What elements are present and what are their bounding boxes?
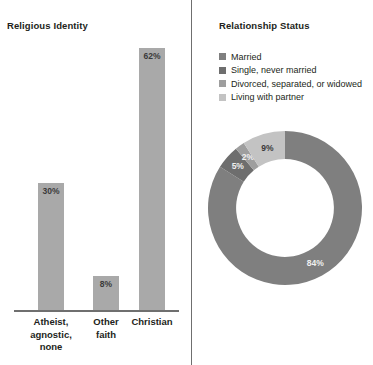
legend-swatch-icon xyxy=(219,94,226,101)
bar-category-line: Other xyxy=(93,316,118,327)
bar xyxy=(139,48,165,310)
religious-identity-bar-chart: Religious Identity 30%8%62% Atheist,agno… xyxy=(0,0,191,365)
panel-divider xyxy=(191,0,192,365)
bar-value-label: 30% xyxy=(31,186,71,196)
legend-item-label: Divorced, separated, or widowed xyxy=(231,79,362,89)
legend-swatch-icon xyxy=(219,67,226,74)
donut-slice-label: 9% xyxy=(261,143,274,153)
legend-item-label: Living with partner xyxy=(231,92,304,102)
donut-legend: MarriedSingle, never marriedDivorced, se… xyxy=(219,50,369,104)
bar-value-label: 62% xyxy=(132,51,172,61)
legend-item[interactable]: Living with partner xyxy=(219,91,369,105)
bar-category-label: Christian xyxy=(118,316,186,329)
legend-item-label: Married xyxy=(231,52,262,62)
bar xyxy=(38,183,64,310)
donut-slice-label: 84% xyxy=(307,258,324,268)
bar-category-line: agnostic, xyxy=(30,329,72,340)
legend-item[interactable]: Married xyxy=(219,50,369,64)
bar-chart-axis xyxy=(14,310,179,312)
bar-category-line: none xyxy=(40,341,63,352)
donut-chart: 84%5%2%9% xyxy=(205,128,365,288)
bar-category-line: Christian xyxy=(131,316,172,327)
legend-swatch-icon xyxy=(219,80,226,87)
donut-svg: 84%5%2%9% xyxy=(205,128,365,288)
bar-category-line: faith xyxy=(96,329,116,340)
donut-slice-label: 5% xyxy=(232,161,245,171)
infographic-page: Religious Identity 30%8%62% Atheist,agno… xyxy=(0,0,373,365)
legend-item[interactable]: Single, never married xyxy=(219,64,369,78)
legend-swatch-icon xyxy=(219,53,226,60)
bar-category-line: Atheist, xyxy=(34,316,69,327)
legend-item[interactable]: Divorced, separated, or widowed xyxy=(219,77,369,91)
bar-value-label: 8% xyxy=(86,279,126,289)
legend-item-label: Single, never married xyxy=(231,65,317,75)
donut-chart-title: Relationship Status xyxy=(219,20,310,31)
bar-chart-title: Religious Identity xyxy=(7,20,88,31)
